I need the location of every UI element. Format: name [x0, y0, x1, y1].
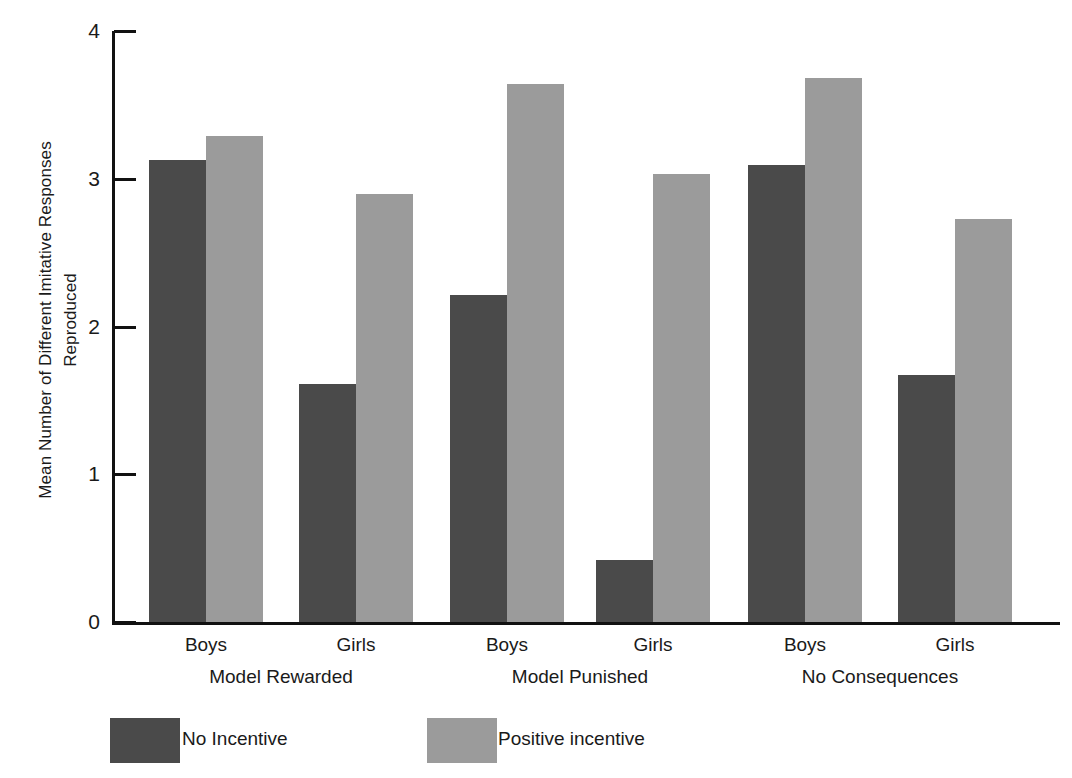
x-axis-subgroup-label: Boys — [146, 634, 266, 656]
bar — [596, 560, 653, 622]
bar — [149, 160, 206, 622]
bar — [450, 295, 507, 622]
bar — [898, 375, 955, 622]
x-axis-subgroup-label: Girls — [895, 634, 1015, 656]
x-axis-subgroup-label: Girls — [593, 634, 713, 656]
x-axis-subgroup-label: Boys — [745, 634, 865, 656]
x-axis-group-label: Model Rewarded — [171, 666, 391, 688]
bar — [299, 384, 356, 622]
legend: Key: No IncentivePositive incentive — [0, 712, 1072, 772]
x-axis-subgroup-label: Girls — [296, 634, 416, 656]
legend-label: Positive incentive — [498, 728, 645, 750]
bar — [805, 78, 862, 622]
bar — [356, 194, 413, 622]
x-axis-group-label: No Consequences — [770, 666, 990, 688]
bar-chart-figure: Mean Number of Different Imitative Respo… — [0, 0, 1072, 778]
x-axis-subgroup-label: Boys — [447, 634, 567, 656]
bar — [748, 165, 805, 622]
bar — [507, 84, 564, 622]
legend-swatch — [427, 718, 497, 763]
legend-label: No Incentive — [182, 728, 288, 750]
bar — [206, 136, 263, 622]
bar — [955, 219, 1012, 622]
x-axis-group-label: Model Punished — [470, 666, 690, 688]
legend-swatch — [110, 718, 180, 763]
bars-layer — [0, 0, 1072, 778]
bar — [653, 174, 710, 622]
